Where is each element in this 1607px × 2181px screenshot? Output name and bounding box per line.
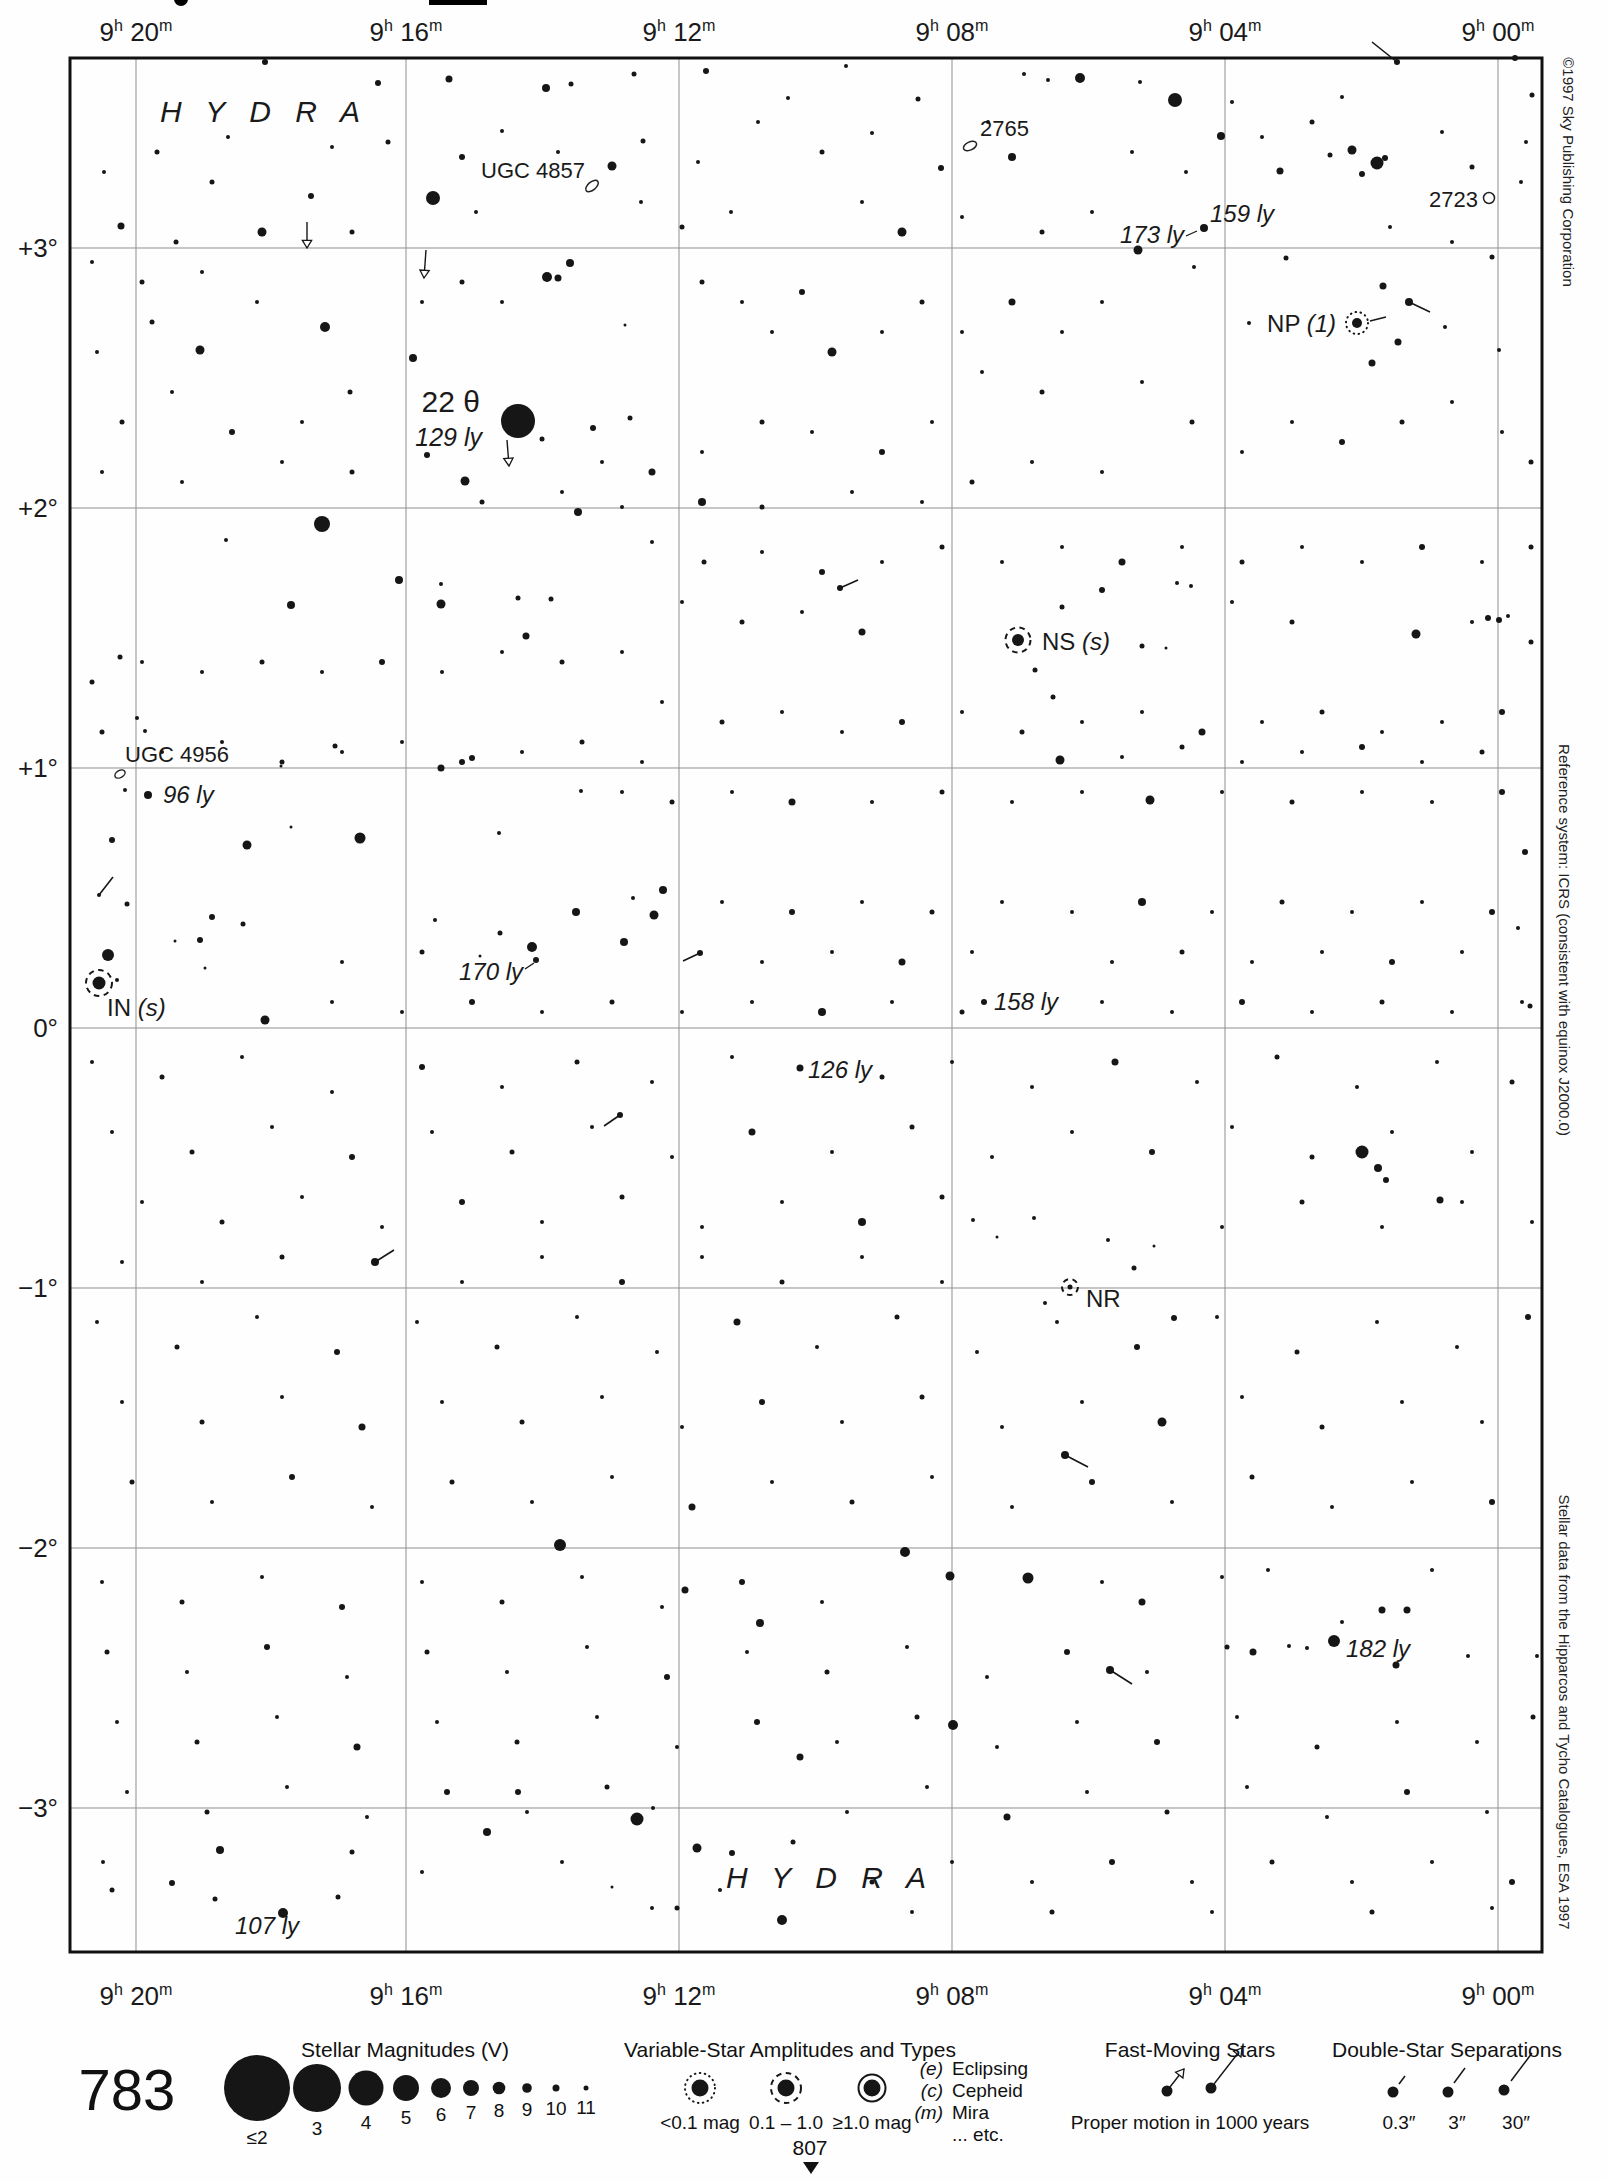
star [930,910,935,915]
star [190,1150,195,1155]
star [870,1880,875,1885]
star [280,1255,285,1260]
star [1375,1320,1379,1324]
star [120,1400,124,1404]
star [1138,898,1146,906]
star [300,420,304,424]
legend-magnitude-dot-5 [393,2075,419,2101]
star [1089,1479,1095,1485]
star [1330,1505,1334,1509]
star [1499,789,1505,795]
star [100,1580,104,1584]
star [540,437,545,442]
star [144,791,152,799]
star [840,1420,844,1424]
star [1480,560,1484,564]
star [1310,1155,1315,1160]
variable-type-cepheid: (c)Cepheid [905,2080,1023,2102]
star [375,80,381,86]
star [500,129,504,133]
star [1529,460,1534,465]
star-label-158 ly: 158 ly [994,988,1060,1015]
star [1000,900,1004,904]
star [693,1844,702,1853]
star [1240,1395,1244,1399]
star [1240,760,1244,764]
star [435,1720,439,1724]
star [205,1810,210,1815]
star [1388,225,1392,229]
galaxy-symbol-UGC 4956 [113,768,126,780]
star [515,1789,521,1795]
star [204,967,207,970]
star [740,620,745,625]
star [1070,910,1074,914]
star [680,225,685,230]
star [118,655,123,660]
legend-double-star-dot [1443,2087,1454,2098]
star-tick [604,1115,620,1126]
star [1320,710,1325,715]
star [1050,1910,1055,1915]
star [797,1754,804,1761]
star [350,470,355,475]
star [580,740,585,745]
star [620,1195,625,1200]
star [320,670,324,674]
star [400,740,404,744]
star [996,1236,999,1239]
star [1470,1150,1474,1154]
star [355,833,366,844]
star [940,1280,944,1284]
star [590,425,596,431]
legend-magnitude-dot-8 [493,2082,506,2095]
star [370,1505,374,1509]
star [1380,1000,1385,1005]
star [460,1280,464,1284]
star [300,1195,304,1199]
star [115,1720,119,1724]
star [1090,210,1094,214]
star [797,1065,804,1072]
star [170,390,174,394]
star [1395,339,1402,346]
star [664,1674,670,1680]
star [140,660,144,664]
star-label-129 ly: 129 ly [415,423,483,451]
star [700,280,705,285]
star [1008,153,1016,161]
star [440,1400,444,1404]
star [533,957,539,963]
star [1520,1000,1524,1004]
star [940,545,945,550]
star [1032,1216,1036,1220]
star [702,560,707,565]
star [339,1604,345,1610]
star [575,1060,580,1065]
star [1350,910,1354,914]
star [840,730,844,734]
star [459,759,465,765]
star [870,800,874,804]
star [241,922,246,927]
star [1390,1130,1394,1134]
legend-fast-moving-star [1162,2086,1173,2097]
star [160,750,164,754]
star [799,289,805,295]
star [229,429,235,435]
star [278,1908,288,1918]
variable-ring-NP [1346,312,1368,334]
star [1180,545,1184,549]
star [995,1745,999,1749]
page-edge-artifact-bar [429,0,487,5]
star [703,68,709,74]
star [579,789,583,793]
star [1270,1860,1275,1865]
star [1529,640,1534,645]
star-label-170 ly: 170 ly [459,958,525,985]
star [569,82,574,87]
star [930,1475,934,1479]
star [610,1475,614,1479]
star [261,1016,270,1025]
legend-double-star-dot [1499,2085,1510,2096]
